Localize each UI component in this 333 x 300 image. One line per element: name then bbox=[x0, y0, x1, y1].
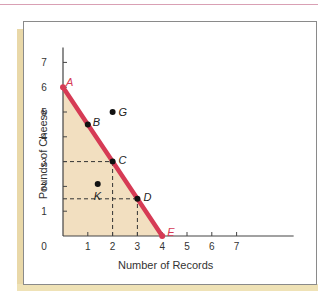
point-label-d: D bbox=[143, 191, 151, 203]
x-tick-label: 2 bbox=[110, 241, 116, 252]
y-tick-label: 6 bbox=[41, 82, 47, 93]
y-axis-label: Pounds of Cheese bbox=[37, 99, 49, 209]
point-g bbox=[110, 109, 116, 115]
x-tick-label: 0 bbox=[41, 241, 47, 252]
point-label-k: K bbox=[94, 190, 102, 202]
y-tick-label: 7 bbox=[41, 57, 47, 68]
x-tick-label: 6 bbox=[209, 241, 215, 252]
x-tick-label: 1 bbox=[85, 241, 91, 252]
point-k bbox=[95, 181, 101, 187]
point-d bbox=[134, 196, 140, 202]
point-label-e: E bbox=[167, 226, 175, 238]
point-label-c: C bbox=[119, 154, 127, 166]
x-tick-label: 5 bbox=[184, 241, 190, 252]
ppf-chart: 012345671234567ABCDEGK bbox=[0, 0, 333, 300]
point-label-g: G bbox=[119, 106, 128, 118]
point-label-a: A bbox=[65, 76, 73, 88]
x-tick-label: 3 bbox=[135, 241, 141, 252]
point-e bbox=[159, 233, 165, 239]
x-axis-label: Number of Records bbox=[118, 259, 213, 271]
x-tick-label: 4 bbox=[159, 241, 165, 252]
point-c bbox=[110, 159, 116, 165]
point-label-b: B bbox=[93, 116, 100, 128]
x-tick-label: 7 bbox=[234, 241, 240, 252]
point-b bbox=[85, 121, 91, 127]
